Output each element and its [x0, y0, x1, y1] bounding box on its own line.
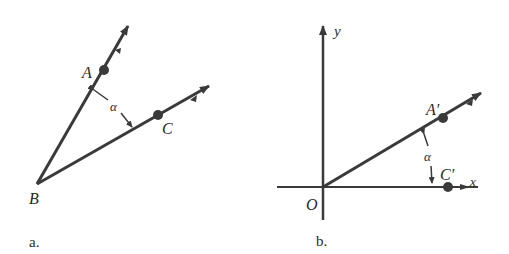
caption-b: b.	[316, 233, 327, 249]
label-y-axis: y	[332, 23, 341, 39]
angle-label-b: α	[424, 149, 432, 164]
angle-arrow-1	[94, 90, 108, 100]
point-c-prime	[443, 182, 453, 192]
caption-a: a.	[29, 234, 39, 250]
point-c	[153, 110, 163, 120]
figure-canvas: α A C B a. α A′ C′ x y O b.	[0, 0, 509, 254]
angle-label-a: α	[110, 99, 118, 114]
x-axis-arrow	[460, 184, 470, 190]
diagram-svg: α A C B a. α A′ C′ x y O b.	[0, 0, 509, 254]
label-b: B	[29, 190, 39, 207]
label-c-prime: C′	[440, 166, 455, 183]
point-a-prime	[438, 113, 448, 123]
label-a: A	[81, 64, 92, 81]
label-origin: O	[306, 196, 318, 213]
figure-b: α A′ C′ x y O b.	[277, 23, 481, 249]
label-x-axis: x	[469, 174, 476, 189]
figure-a: α A C B a.	[29, 26, 209, 250]
point-a	[99, 65, 109, 75]
angle-arrow-b-2	[431, 166, 432, 183]
angle-arrow-2	[121, 113, 132, 127]
label-a-prime: A′	[425, 101, 440, 118]
ray-bc	[37, 86, 209, 184]
label-c: C	[162, 120, 173, 137]
ray-oa-prime	[323, 93, 481, 187]
angle-arrow-b-1	[424, 134, 428, 146]
